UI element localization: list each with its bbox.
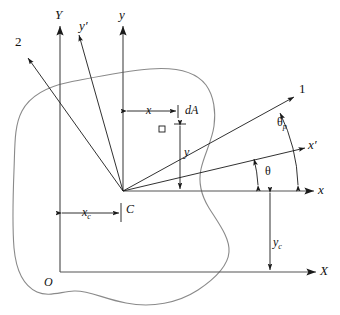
centroidal-y-axis-label: y	[119, 8, 125, 21]
x-prime-axis-label: x′	[308, 138, 317, 151]
angle-theta-p-subscript: p	[283, 122, 287, 131]
theta-arc	[254, 159, 258, 185]
dimension-y-label: y	[184, 146, 189, 158]
principal-axis-2-line	[28, 58, 123, 191]
dimension-xc-subscript: c	[87, 212, 91, 221]
dimension-xc	[62, 203, 121, 222]
global-x-axis-label: X	[320, 264, 328, 277]
dimension-xc-label: xc	[82, 206, 91, 222]
x-prime-axis-line	[123, 148, 305, 191]
principal-axes-figure: Y X O y x y′ x′ 1 2 C dA x y xc yc θ θp	[0, 0, 340, 315]
origin-label: O	[44, 276, 53, 288]
centroid-label: C	[126, 203, 134, 215]
centroidal-axes	[123, 26, 314, 191]
global-y-axis-label: Y	[55, 8, 62, 21]
diagram-canvas	[0, 0, 340, 315]
y-prime-axis-line	[79, 35, 123, 191]
dimension-yc-label: yc	[273, 236, 282, 252]
principal-axes	[28, 58, 294, 191]
angle-theta-p-label: θp	[277, 116, 287, 132]
area-element-label: dA	[185, 104, 198, 116]
dimension-x-label: x	[146, 104, 151, 116]
area-element-dA-square	[159, 126, 165, 132]
angle-theta-label: θ	[265, 165, 271, 177]
dimension-yc-subscript: c	[278, 242, 282, 251]
dimension-x	[127, 105, 178, 118]
y-prime-axis-label: y′	[79, 19, 88, 32]
principal-axis-1-label: 1	[299, 82, 306, 95]
centroidal-x-axis-label: x	[318, 183, 324, 196]
principal-axis-2-label: 2	[15, 35, 22, 48]
angle-arcs	[254, 113, 298, 185]
